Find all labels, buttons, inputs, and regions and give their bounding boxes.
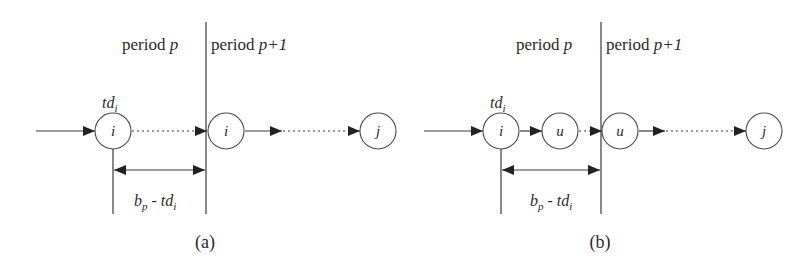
caption-b: (b) xyxy=(590,232,611,253)
period-p-label: period p xyxy=(516,35,572,54)
node-i-label: i xyxy=(111,123,115,139)
node-u-next-label: u xyxy=(616,123,624,139)
interval-label: bp - tdi xyxy=(134,192,176,212)
period-p-plus-1-label: period p+1 xyxy=(606,35,682,54)
panel-a: period p period p+1 tdi i i j bp - tdi (… xyxy=(36,22,396,253)
interval-label: bp - tdi xyxy=(530,192,572,212)
node-i-next-label: i xyxy=(224,123,228,139)
td-i-label: tdi xyxy=(102,94,118,114)
td-i-label: tdi xyxy=(490,94,506,114)
node-u-label: u xyxy=(556,123,564,139)
diagram-canvas: period p period p+1 tdi i i j bp - tdi (… xyxy=(0,0,808,267)
caption-a: (a) xyxy=(195,232,215,253)
period-p-plus-1-label: period p+1 xyxy=(211,35,287,54)
node-i-label: i xyxy=(499,123,503,139)
panel-b: period p period p+1 tdi i u u j bp - tdi… xyxy=(424,22,782,253)
period-p-label: period p xyxy=(122,35,178,54)
